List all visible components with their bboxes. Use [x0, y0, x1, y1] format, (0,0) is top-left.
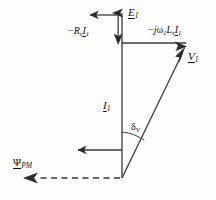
psi-symbol: Ψ [13, 156, 21, 168]
delta-subscript: V [136, 126, 140, 133]
back-emf-label: E1 [128, 7, 138, 20]
voltage-symbol: V [188, 50, 195, 62]
back-emf-subscript: 1 [135, 11, 139, 20]
pm-flux-arrowhead [23, 173, 38, 184]
pm-flux-label: ΨPM [13, 157, 32, 170]
current-subscript: 1 [86, 30, 89, 37]
inductive-drop-label: −jω1LsI1 [148, 25, 181, 37]
psi-subscript: PM [21, 161, 32, 170]
voltage-subscript: 1 [195, 55, 199, 64]
load-angle-label: δV [131, 122, 140, 134]
resistive-drop-label: −RsI1 [68, 26, 89, 38]
current-subscript: 1 [178, 29, 181, 36]
terminal-voltage-label: V1 [188, 51, 198, 64]
phasor-diagram-figure: E1 −RsI1 −jω1LsI1 V1 I1 δV ΨPM [0, 0, 216, 200]
stator-current-label: I1 [103, 100, 110, 113]
back-emf-symbol: E [128, 6, 135, 18]
current-subscript: 1 [107, 104, 111, 113]
terminal-voltage-vector [122, 54, 182, 178]
